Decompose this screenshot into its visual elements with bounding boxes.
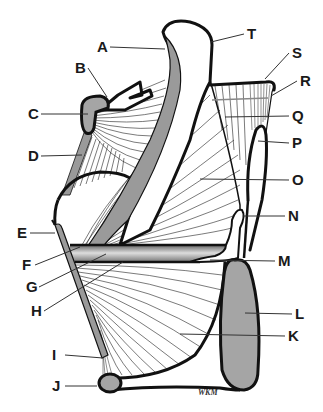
label-a: A: [97, 38, 165, 55]
label-text-e: E: [17, 224, 27, 241]
signature: WKM: [198, 388, 218, 397]
label-text-j: J: [52, 377, 60, 394]
leader-line-a: [110, 47, 165, 49]
label-text-g: G: [26, 278, 38, 295]
label-text-h: H: [31, 302, 42, 319]
j-structure: [99, 374, 121, 392]
label-r: R: [271, 72, 311, 96]
label-text-a: A: [97, 38, 108, 55]
leader-line-b: [88, 68, 107, 97]
l-structure: [220, 260, 259, 390]
p-structure: [248, 126, 267, 250]
label-text-l: L: [295, 305, 304, 322]
left-vertical-outline: [55, 200, 58, 225]
label-text-o: O: [292, 171, 304, 188]
label-i: I: [52, 346, 103, 363]
label-t: T: [211, 25, 256, 42]
label-text-c: C: [28, 105, 39, 122]
s-top-edge: [210, 82, 274, 90]
k-fiber-fan: [75, 265, 222, 375]
label-s: S: [265, 44, 302, 79]
label-text-q: Q: [292, 107, 304, 124]
leader-line-o: [200, 179, 289, 180]
label-text-r: R: [300, 72, 311, 89]
label-g: G: [26, 254, 106, 295]
label-b: B: [75, 59, 107, 97]
label-q: Q: [225, 107, 304, 124]
label-text-m: M: [278, 252, 291, 269]
k-outline: [105, 262, 225, 378]
leader-line-t: [211, 34, 244, 42]
label-text-i: I: [52, 346, 56, 363]
label-text-k: K: [288, 327, 299, 344]
bottom-outline: [110, 387, 240, 390]
label-text-n: N: [288, 207, 299, 224]
leader-line-q: [225, 116, 289, 117]
anatomical-diagram: WKM ABCDEFGHIJKLMNOPQRST: [0, 0, 323, 412]
label-text-s: S: [292, 44, 302, 61]
label-j: J: [52, 377, 97, 394]
label-e: E: [17, 224, 55, 241]
label-text-p: P: [292, 134, 302, 151]
label-text-d: D: [28, 147, 39, 164]
label-c: C: [28, 105, 88, 122]
label-text-t: T: [247, 25, 256, 42]
leader-line-s: [265, 53, 289, 79]
label-text-f: F: [22, 256, 31, 273]
leader-line-i: [65, 355, 103, 358]
label-text-b: B: [75, 59, 86, 76]
n-right-line: [244, 200, 248, 258]
